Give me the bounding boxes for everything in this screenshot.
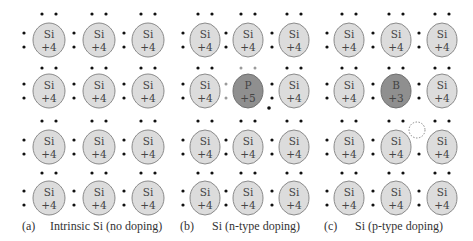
atom-symbol: Si	[289, 135, 300, 147]
si-atom: Si+4	[33, 74, 65, 108]
valence-electron	[270, 203, 273, 206]
atom-charge: +4	[286, 199, 302, 211]
atom-symbol: B	[392, 79, 400, 91]
atom-symbol: Si	[344, 186, 355, 198]
valence-electron	[401, 119, 404, 122]
valence-electron	[371, 203, 374, 206]
valence-electron	[387, 119, 390, 122]
si-atom: Si+4	[190, 23, 220, 57]
valence-electron	[239, 171, 242, 174]
atom-symbol: Si	[391, 28, 402, 40]
panel-tag: (c)	[324, 219, 337, 233]
atom-symbol: Si	[437, 186, 448, 198]
valence-electron	[54, 119, 57, 122]
atom-charge: +4	[341, 92, 357, 104]
atom-charge: +4	[197, 148, 213, 160]
panel-b: Si+4Si+4Si+4Si+4P+5Si+4Si+4Si+4Si+4Si+4S…	[180, 12, 309, 233]
valence-electron	[181, 82, 184, 85]
valence-electron	[139, 171, 142, 174]
atom-symbol: Si	[344, 28, 355, 40]
valence-electron	[54, 66, 57, 69]
valence-electron	[285, 12, 288, 15]
atom-charge: +4	[91, 148, 107, 160]
dopant-atom: P+5	[233, 74, 263, 108]
atom-symbol: Si	[44, 79, 55, 91]
atom-symbol: Si	[94, 186, 105, 198]
atom-symbol: Si	[391, 135, 402, 147]
atom-symbol: Si	[200, 79, 211, 91]
atom-charge: +5	[240, 92, 255, 104]
valence-electron	[72, 82, 75, 85]
atom-charge: +4	[91, 41, 107, 53]
valence-electron	[22, 138, 25, 141]
valence-electron	[90, 12, 93, 15]
panel-tag: (a)	[22, 219, 35, 233]
panel-caption: Si (n-type doping)	[212, 219, 300, 233]
valence-electron	[299, 12, 302, 15]
si-atom: Si+4	[132, 23, 164, 57]
valence-electron	[240, 67, 243, 70]
si-atom: Si+4	[233, 181, 263, 215]
valence-electron	[325, 45, 328, 48]
atom-charge: +4	[388, 148, 404, 160]
valence-electron	[340, 171, 343, 174]
valence-electron	[104, 66, 107, 69]
valence-electron	[299, 119, 302, 122]
valence-electron	[285, 171, 288, 174]
atom-charge: +4	[91, 199, 107, 211]
valence-electron	[325, 31, 328, 34]
valence-electron	[417, 189, 420, 192]
si-atom: Si+4	[233, 130, 263, 164]
si-atom: Si+4	[33, 130, 65, 164]
atom-charge: +4	[434, 148, 450, 160]
valence-electron	[254, 67, 257, 70]
atom-charge: +3	[388, 92, 403, 104]
valence-electron	[122, 152, 125, 155]
atom-symbol: Si	[200, 135, 211, 147]
panel-a: Si+4Si+4Si+4Si+4Si+4Si+4Si+4Si+4Si+4Si+4…	[22, 12, 164, 233]
si-atom: Si+4	[381, 130, 411, 164]
atom-charge: +4	[197, 41, 213, 53]
valence-electron	[22, 82, 25, 85]
valence-electron	[433, 12, 436, 15]
valence-electron	[371, 31, 374, 34]
valence-electron	[417, 31, 420, 34]
atom-symbol: Si	[344, 135, 355, 147]
atom-symbol: Si	[437, 79, 448, 91]
si-atom: Si+4	[279, 74, 309, 108]
atom-symbol: Si	[143, 79, 154, 91]
si-atom: Si+4	[279, 130, 309, 164]
atom-charge: +4	[41, 148, 57, 160]
valence-electron	[72, 152, 75, 155]
valence-electron	[401, 12, 404, 15]
atom-symbol: Si	[391, 186, 402, 198]
valence-electron	[354, 12, 357, 15]
atom-symbol: Si	[289, 186, 300, 198]
valence-electron	[196, 12, 199, 15]
valence-electron	[210, 12, 213, 15]
valence-electron	[122, 203, 125, 206]
si-atom: Si+4	[381, 23, 411, 57]
panel-caption: Si (p-type doping)	[355, 219, 443, 233]
atom-symbol: P	[244, 79, 251, 91]
atom-symbol: Si	[437, 135, 448, 147]
valence-electron	[354, 119, 357, 122]
atom-symbol: Si	[94, 79, 105, 91]
valence-electron	[325, 152, 328, 155]
valence-electron	[447, 12, 450, 15]
atom-symbol: Si	[143, 28, 154, 40]
valence-electron	[181, 138, 184, 141]
si-atom: Si+4	[334, 23, 364, 57]
valence-electron	[225, 83, 228, 86]
atom-symbol: Si	[143, 186, 154, 198]
atom-charge: +4	[286, 92, 302, 104]
valence-electron	[371, 152, 374, 155]
valence-electron	[90, 66, 93, 69]
valence-electron	[417, 82, 420, 85]
atom-symbol: Si	[243, 28, 254, 40]
si-atom: Si+4	[233, 23, 263, 57]
valence-electron	[104, 171, 107, 174]
valence-electron	[22, 189, 25, 192]
atom-charge: +4	[434, 41, 450, 53]
valence-electron	[54, 12, 57, 15]
